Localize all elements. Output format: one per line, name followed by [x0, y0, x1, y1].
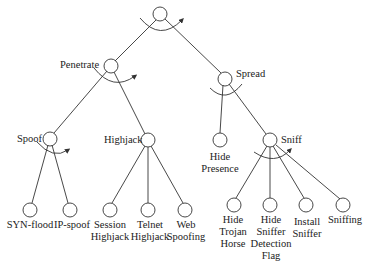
label-web-spoofing: Web Spoofing [167, 219, 206, 243]
label-install-sniffer: Install Sniffer [293, 216, 322, 240]
label-hide-presence: Hide Presence [201, 151, 238, 175]
hide-trojan-horse-node [227, 198, 241, 212]
label-spoof: Spoof [17, 133, 42, 145]
label-hide-sniffer-detection-flag: Hide Sniffer Detection Flag [251, 214, 292, 262]
label-syn-flood: SYN-flood [7, 219, 54, 231]
install-sniffer-node [299, 198, 313, 212]
hide-presence-node [213, 133, 227, 147]
web-spoofing-node [178, 203, 192, 217]
session-highjack-node [103, 203, 117, 217]
spread-node [218, 72, 232, 86]
hide-sniffer-detection-flag-node [263, 198, 277, 212]
sniffing-node [336, 198, 350, 212]
label-sniffing: Sniffing [328, 214, 362, 226]
spoof-node [43, 132, 57, 146]
highjack-node [141, 133, 155, 147]
root-node [153, 7, 167, 21]
label-penetrate: Penetrate [60, 59, 99, 71]
label-spread: Spread [236, 68, 265, 80]
sniff-node [263, 133, 277, 147]
ip-spoof-node [63, 203, 77, 217]
label-ip-spoof: IP-spoof [54, 219, 90, 231]
label-highjack: Highjack [104, 134, 143, 146]
label-session-highjack: Session Highjack [91, 219, 130, 243]
penetrate-node [104, 59, 118, 73]
telnet-highjack-node [141, 203, 155, 217]
label-sniff: Sniff [281, 134, 302, 146]
label-telnet-highjack: Telnet Highjack [131, 219, 170, 243]
label-hide-trojan-horse: Hide Trojan Horse [219, 214, 247, 250]
attack-tree-diagram: Penetrate Spread Spoof Highjack Hide Pre… [0, 0, 377, 263]
syn-flood-node [23, 203, 37, 217]
